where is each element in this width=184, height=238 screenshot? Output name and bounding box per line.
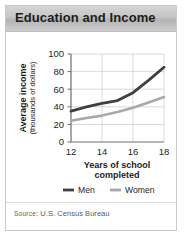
- y-tick-label: 80: [53, 66, 64, 77]
- x-tick-label: 12: [66, 146, 77, 157]
- chart-figure: 100 80 60 40 20 0 12 14 16 18 Average in…: [6, 32, 178, 198]
- x-tick-label: 18: [159, 146, 170, 157]
- y-axis-subtitle: (thousands of dollars): [28, 61, 37, 134]
- x-axis-title-line2: completed: [94, 170, 139, 180]
- title-band: Education and Income: [6, 6, 176, 32]
- y-tick-label: 100: [48, 48, 64, 59]
- y-tick-label: 40: [53, 101, 64, 112]
- source-note: Source: U.S. Census Bureau: [14, 209, 110, 218]
- legend-label-men: Men: [78, 185, 95, 195]
- page-title: Education and Income: [15, 10, 156, 25]
- plot-background: [71, 54, 164, 142]
- source-row: Source: U.S. Census Bureau: [6, 202, 176, 231]
- source-body: U.S. Census Bureau: [40, 209, 109, 218]
- y-axis-title: Average income: [18, 63, 28, 132]
- line-chart-svg: 100 80 60 40 20 0 12 14 16 18 Average in…: [6, 32, 178, 198]
- x-tick-label: 14: [97, 146, 108, 157]
- y-tick-label: 60: [53, 84, 64, 95]
- chart-card: Education and Income: [5, 5, 177, 231]
- x-axis-title: Years of school: [84, 160, 151, 170]
- legend: Men Women: [63, 185, 155, 195]
- legend-label-women: Women: [125, 185, 155, 195]
- x-tick-label: 16: [128, 146, 139, 157]
- y-tick-label: 20: [53, 119, 64, 130]
- y-tick-label: 0: [59, 136, 64, 147]
- source-prefix: Source: [14, 210, 36, 217]
